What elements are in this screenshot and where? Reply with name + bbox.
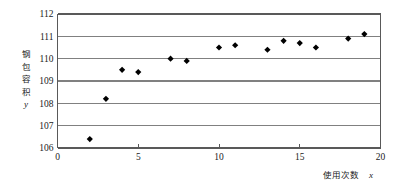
- y-tick-label: 107: [39, 121, 54, 131]
- y-tick-label: 109: [39, 76, 54, 86]
- scatter-chart-figure: 106107108109110111112 05101520 钢包容积y 使用次…: [0, 0, 397, 189]
- x-tick-label: 0: [55, 152, 60, 162]
- y-axis-label-char: 积: [22, 87, 31, 97]
- y-axis-label-char: 钢: [22, 49, 31, 59]
- y-tick-label: 110: [40, 54, 54, 64]
- y-tick-label: 112: [40, 9, 54, 19]
- x-tick-label: 15: [295, 152, 305, 162]
- chart-svg: 106107108109110111112 05101520 钢包容积y 使用次…: [0, 0, 397, 189]
- y-axis-label-char: 包: [22, 62, 31, 72]
- y-tick-label: 108: [39, 99, 54, 109]
- y-axis-label-char: 容: [22, 74, 31, 84]
- x-tick-label: 10: [214, 152, 224, 162]
- x-axis-label-text: 使用次数: [323, 170, 359, 180]
- y-tick-label: 106: [39, 143, 54, 153]
- y-tick-label: 111: [40, 32, 54, 42]
- y-axis-label-variable: y: [23, 99, 28, 109]
- x-tick-label: 20: [376, 152, 386, 162]
- x-axis-label-variable: x: [368, 170, 373, 180]
- x-tick-label: 5: [136, 152, 141, 162]
